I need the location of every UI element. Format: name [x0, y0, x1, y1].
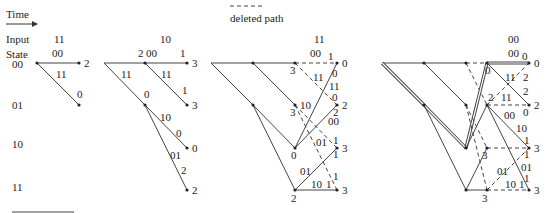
svg-text:10: 10 — [300, 99, 312, 111]
svg-text:2: 2 — [523, 71, 529, 83]
svg-text:01: 01 — [497, 165, 508, 177]
svg-text:00: 00 — [310, 47, 322, 59]
svg-text:2: 2 — [488, 91, 494, 103]
svg-text:0: 0 — [522, 50, 528, 62]
svg-text:0: 0 — [332, 67, 338, 79]
svg-text:11: 11 — [501, 91, 512, 103]
panel-4: 00 00 0 0 11 2 2 2 11 — [382, 33, 540, 204]
panel-2: 10 00 1 2 11 11 1 0 10 0 01 2 3 3 0 2 — [104, 33, 198, 196]
svg-text:00: 00 — [146, 47, 158, 59]
svg-text:0: 0 — [332, 91, 338, 103]
svg-text:3: 3 — [342, 184, 348, 196]
svg-text:00: 00 — [508, 47, 520, 59]
svg-text:2: 2 — [342, 99, 348, 111]
svg-text:11: 11 — [161, 68, 172, 80]
svg-text:2: 2 — [138, 47, 144, 59]
svg-text:0: 0 — [534, 57, 540, 69]
state-00-label: 00 — [12, 58, 24, 70]
svg-text:1: 1 — [333, 148, 339, 160]
svg-text:10: 10 — [516, 122, 528, 134]
panel-3-input: 11 — [314, 33, 325, 45]
svg-text:0: 0 — [485, 64, 491, 76]
svg-text:1: 1 — [524, 172, 530, 184]
svg-text:3: 3 — [192, 57, 198, 69]
svg-text:0: 0 — [176, 127, 182, 139]
panel-4-input: 00 — [508, 33, 520, 45]
metric: 2 — [84, 57, 90, 69]
legend-label: deleted path — [230, 12, 284, 24]
svg-text:3: 3 — [192, 99, 198, 111]
svg-text:1: 1 — [333, 170, 339, 182]
svg-text:01: 01 — [170, 149, 181, 161]
svg-text:1: 1 — [180, 47, 186, 59]
svg-text:3: 3 — [482, 149, 488, 161]
state-01-label: 01 — [12, 99, 23, 111]
svg-text:0: 0 — [291, 149, 297, 161]
svg-text:3: 3 — [342, 142, 348, 154]
svg-text:1: 1 — [326, 178, 332, 190]
state-10-label: 10 — [12, 138, 24, 150]
panel-1: 11 00 11 2 0 — [35, 33, 89, 107]
svg-text:10: 10 — [311, 178, 323, 190]
time-arrowhead-icon — [32, 21, 38, 27]
panel-1-input: 11 — [54, 33, 65, 45]
metric: 0 — [77, 88, 83, 100]
panel-3: 11 00 1 3 11 0 11 0 3 10 00 1 0 01 1 01 … — [211, 33, 348, 204]
trellis-diagram: Time deleted path Input State 00 01 10 1… — [0, 0, 548, 213]
state-11-label: 11 — [12, 181, 23, 193]
svg-text:0: 0 — [144, 88, 150, 100]
svg-text:2: 2 — [523, 85, 529, 97]
time-label: Time — [6, 8, 29, 20]
svg-text:0: 0 — [342, 57, 348, 69]
svg-text:2: 2 — [192, 184, 198, 196]
svg-text:2: 2 — [534, 99, 540, 111]
svg-text:11: 11 — [313, 71, 324, 83]
panel-2-input: 10 — [160, 33, 172, 45]
svg-text:2: 2 — [291, 192, 297, 204]
svg-text:11: 11 — [121, 68, 132, 80]
svg-text:3: 3 — [534, 184, 540, 196]
svg-text:01: 01 — [300, 165, 311, 177]
input-row-label: Input — [6, 33, 29, 45]
svg-text:3: 3 — [290, 64, 296, 76]
svg-text:1: 1 — [519, 178, 525, 190]
svg-text:2: 2 — [181, 164, 187, 176]
svg-text:11: 11 — [56, 68, 67, 80]
svg-text:10: 10 — [160, 111, 172, 123]
svg-text:2: 2 — [333, 106, 339, 118]
svg-text:0: 0 — [523, 106, 529, 118]
svg-text:01: 01 — [316, 136, 327, 148]
svg-text:1: 1 — [524, 148, 530, 160]
svg-text:1: 1 — [524, 134, 530, 146]
svg-text:3: 3 — [482, 192, 488, 204]
svg-text:0: 0 — [192, 142, 198, 154]
svg-text:00: 00 — [52, 47, 64, 59]
svg-text:1: 1 — [328, 50, 334, 62]
svg-text:1: 1 — [333, 134, 339, 146]
svg-text:3: 3 — [534, 142, 540, 154]
svg-text:3: 3 — [290, 106, 296, 118]
svg-text:00: 00 — [504, 109, 516, 121]
svg-text:10: 10 — [505, 178, 517, 190]
svg-text:1: 1 — [182, 84, 188, 96]
svg-text:11: 11 — [505, 71, 516, 83]
